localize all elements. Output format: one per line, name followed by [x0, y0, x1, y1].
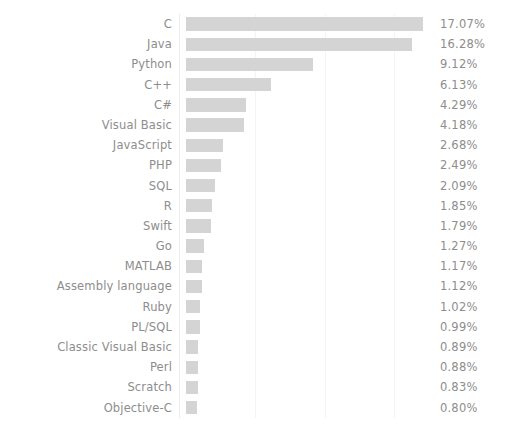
value-label: 1.79% — [440, 216, 478, 236]
bar-track — [186, 34, 436, 54]
bar-row[interactable]: R1.85% — [0, 196, 512, 216]
bar-track — [186, 337, 436, 357]
bar-row[interactable]: PL/SQL0.99% — [0, 317, 512, 337]
category-label: Scratch — [0, 377, 172, 397]
value-label: 2.68% — [440, 135, 478, 155]
bar-row[interactable]: JavaScript2.68% — [0, 135, 512, 155]
category-label: Go — [0, 236, 172, 256]
bar[interactable] — [186, 219, 211, 232]
bar-row[interactable]: Perl0.88% — [0, 357, 512, 377]
bar[interactable] — [186, 78, 271, 91]
category-label: Java — [0, 34, 172, 54]
bar-row[interactable]: Swift1.79% — [0, 216, 512, 236]
bar-track — [186, 216, 436, 236]
bar-track — [186, 317, 436, 337]
bar[interactable] — [186, 179, 215, 192]
bar-row[interactable]: Visual Basic4.18% — [0, 115, 512, 135]
bar[interactable] — [186, 58, 313, 71]
category-label: C++ — [0, 75, 172, 95]
bar-track — [186, 196, 436, 216]
bar-track — [186, 176, 436, 196]
value-label: 16.28% — [440, 34, 485, 54]
category-label: C# — [0, 95, 172, 115]
value-label: 1.27% — [440, 236, 478, 256]
bar-track — [186, 75, 436, 95]
bar-row[interactable]: SQL2.09% — [0, 176, 512, 196]
bar-track — [186, 357, 436, 377]
bar-track — [186, 236, 436, 256]
bar-row[interactable]: Go1.27% — [0, 236, 512, 256]
value-label: 17.07% — [440, 14, 485, 34]
bar[interactable] — [186, 239, 204, 252]
bar-row[interactable]: PHP2.49% — [0, 155, 512, 175]
bar[interactable] — [186, 98, 246, 111]
category-label: Perl — [0, 357, 172, 377]
category-label: SQL — [0, 176, 172, 196]
bar-row[interactable]: Scratch0.83% — [0, 377, 512, 397]
bar-track — [186, 155, 436, 175]
value-label: 4.18% — [440, 115, 478, 135]
bar[interactable] — [186, 381, 198, 394]
bar[interactable] — [186, 118, 244, 131]
category-label: Visual Basic — [0, 115, 172, 135]
value-label: 0.88% — [440, 357, 478, 377]
bar-track — [186, 256, 436, 276]
bar-track — [186, 398, 436, 418]
bar[interactable] — [186, 340, 198, 353]
value-label: 9.12% — [440, 54, 478, 74]
bar[interactable] — [186, 361, 198, 374]
bar-row[interactable]: Java16.28% — [0, 34, 512, 54]
bar-row[interactable]: Objective-C0.80% — [0, 398, 512, 418]
bar[interactable] — [186, 320, 200, 333]
bar[interactable] — [186, 260, 202, 273]
bar[interactable] — [186, 199, 212, 212]
category-label: PL/SQL — [0, 317, 172, 337]
bar-track — [186, 276, 436, 296]
value-label: 0.83% — [440, 377, 478, 397]
value-label: 0.89% — [440, 337, 478, 357]
category-label: Ruby — [0, 297, 172, 317]
value-label: 0.80% — [440, 398, 478, 418]
value-label: 6.13% — [440, 75, 478, 95]
value-label: 1.17% — [440, 256, 478, 276]
category-label: Classic Visual Basic — [0, 337, 172, 357]
bar-rows: C17.07%Java16.28%Python9.12%C++6.13%C#4.… — [0, 14, 512, 418]
bar-row[interactable]: C++6.13% — [0, 75, 512, 95]
bar[interactable] — [186, 38, 412, 51]
value-label: 1.02% — [440, 297, 478, 317]
bar-row[interactable]: C17.07% — [0, 14, 512, 34]
value-label: 2.09% — [440, 176, 478, 196]
bar-track — [186, 14, 436, 34]
value-label: 2.49% — [440, 155, 478, 175]
value-label: 1.85% — [440, 196, 478, 216]
bar-track — [186, 115, 436, 135]
bar-row[interactable]: Classic Visual Basic0.89% — [0, 337, 512, 357]
bar-chart: C17.07%Java16.28%Python9.12%C++6.13%C#4.… — [0, 0, 512, 442]
bar-row[interactable]: MATLAB1.17% — [0, 256, 512, 276]
bar-track — [186, 377, 436, 397]
bar-track — [186, 54, 436, 74]
bar[interactable] — [186, 159, 221, 172]
category-label: Objective-C — [0, 398, 172, 418]
bar-track — [186, 95, 436, 115]
bar-row[interactable]: Ruby1.02% — [0, 297, 512, 317]
category-label: C — [0, 14, 172, 34]
bar-track — [186, 297, 436, 317]
category-label: JavaScript — [0, 135, 172, 155]
bar[interactable] — [186, 17, 423, 30]
category-label: PHP — [0, 155, 172, 175]
bar[interactable] — [186, 139, 223, 152]
bar[interactable] — [186, 300, 200, 313]
bar-row[interactable]: C#4.29% — [0, 95, 512, 115]
category-label: MATLAB — [0, 256, 172, 276]
value-label: 1.12% — [440, 276, 478, 296]
bar[interactable] — [186, 401, 197, 414]
bar-track — [186, 135, 436, 155]
category-label: Assembly language — [0, 276, 172, 296]
value-label: 4.29% — [440, 95, 478, 115]
bar-row[interactable]: Python9.12% — [0, 54, 512, 74]
bar[interactable] — [186, 280, 202, 293]
bar-row[interactable]: Assembly language1.12% — [0, 276, 512, 296]
value-label: 0.99% — [440, 317, 478, 337]
category-label: R — [0, 196, 172, 216]
